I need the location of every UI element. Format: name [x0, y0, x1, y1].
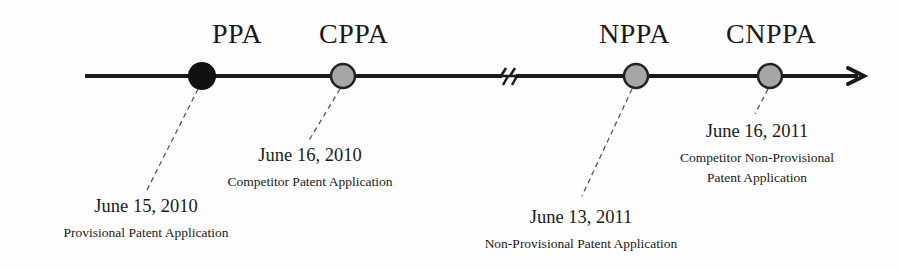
event-description-ppa: Provisional Patent Application	[20, 223, 272, 243]
event-detail-ppa: June 15, 2010 Provisional Patent Applica…	[20, 196, 272, 243]
connector-cnppa	[755, 89, 768, 114]
connector-cppa	[308, 89, 340, 142]
event-description-nppa: Non-Provisional Patent Application	[440, 234, 722, 254]
milestone-label-nppa: NPPA	[599, 18, 670, 50]
axis-break-icon	[501, 68, 517, 85]
milestone-label-ppa: PPA	[212, 18, 262, 50]
connector-nppa	[582, 89, 632, 196]
milestone-label-cnppa: CNPPA	[726, 18, 816, 50]
timeline-diagram: PPA CPPA NPPA CNPPA June 15, 2010 Provis…	[0, 0, 900, 270]
event-date-ppa: June 15, 2010	[20, 196, 272, 217]
event-date-nppa: June 13, 2011	[440, 207, 722, 228]
marker-cppa	[331, 64, 355, 88]
event-description-cnppa-line1: Competitor Non-Provisional	[648, 148, 866, 168]
event-date-cnppa: June 16, 2011	[648, 121, 866, 142]
event-detail-nppa: June 13, 2011 Non-Provisional Patent App…	[440, 207, 722, 254]
event-detail-cnppa: June 16, 2011 Competitor Non-Provisional…	[648, 121, 866, 188]
marker-ppa	[189, 63, 215, 89]
event-description-cppa: Competitor Patent Application	[190, 172, 430, 192]
event-detail-cppa: June 16, 2010 Competitor Patent Applicat…	[190, 145, 430, 192]
event-date-cppa: June 16, 2010	[190, 145, 430, 166]
event-description-cnppa-line2: Patent Application	[648, 168, 866, 188]
marker-nppa	[624, 64, 648, 88]
milestone-label-cppa: CPPA	[319, 18, 388, 50]
marker-cnppa	[758, 64, 782, 88]
